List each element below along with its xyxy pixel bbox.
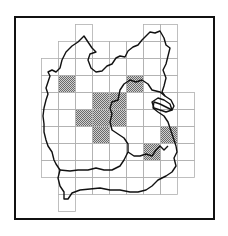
- grid-cell: [59, 161, 76, 178]
- grid-cell: [127, 59, 144, 76]
- hatched-cell: [92, 126, 109, 143]
- grid-cell: [93, 76, 110, 93]
- grid-cell: [161, 178, 178, 195]
- grid-cell: [59, 127, 76, 144]
- grid-cell: [76, 127, 93, 144]
- grid-cell: [59, 42, 76, 59]
- grid-cell: [161, 25, 178, 42]
- grid-cell: [59, 93, 76, 110]
- grid-cell: [110, 178, 127, 195]
- hatched-cell: [92, 92, 109, 109]
- grid-cell: [178, 127, 195, 144]
- grid-cell: [110, 59, 127, 76]
- hatched-cell: [75, 109, 92, 126]
- grid-cell: [59, 144, 76, 161]
- grid-cell: [127, 93, 144, 110]
- grid-cell: [59, 195, 76, 212]
- hatched-cell: [126, 75, 143, 92]
- grid-cell: [144, 161, 161, 178]
- grid-cell: [144, 93, 161, 110]
- hatched-cell: [143, 143, 160, 160]
- grid-cell: [161, 144, 178, 161]
- grid-cell: [178, 93, 195, 110]
- grid-cell: [76, 178, 93, 195]
- grid-cell: [42, 59, 59, 76]
- grid-cell: [127, 127, 144, 144]
- grid-cell: [59, 110, 76, 127]
- grid-cell: [93, 178, 110, 195]
- grid-cell: [93, 42, 110, 59]
- grid-cell: [178, 144, 195, 161]
- grid-cell: [42, 144, 59, 161]
- grid-cell: [127, 161, 144, 178]
- grid-cell: [110, 161, 127, 178]
- grid-cell: [144, 59, 161, 76]
- grid-cell: [76, 76, 93, 93]
- grid-cell: [178, 110, 195, 127]
- grid-cell: [161, 59, 178, 76]
- grid-cell: [110, 42, 127, 59]
- grid-cell: [144, 127, 161, 144]
- grid-cell: [127, 110, 144, 127]
- distribution-map: [0, 0, 228, 236]
- grid-cell: [144, 42, 161, 59]
- grid-cell: [110, 144, 127, 161]
- grid-cell: [178, 161, 195, 178]
- grid-cell: [93, 144, 110, 161]
- hatched-cell: [92, 109, 109, 126]
- hatched-cell: [58, 75, 75, 92]
- grid-cell: [76, 144, 93, 161]
- grid-cell: [76, 25, 93, 42]
- grid-cell: [76, 93, 93, 110]
